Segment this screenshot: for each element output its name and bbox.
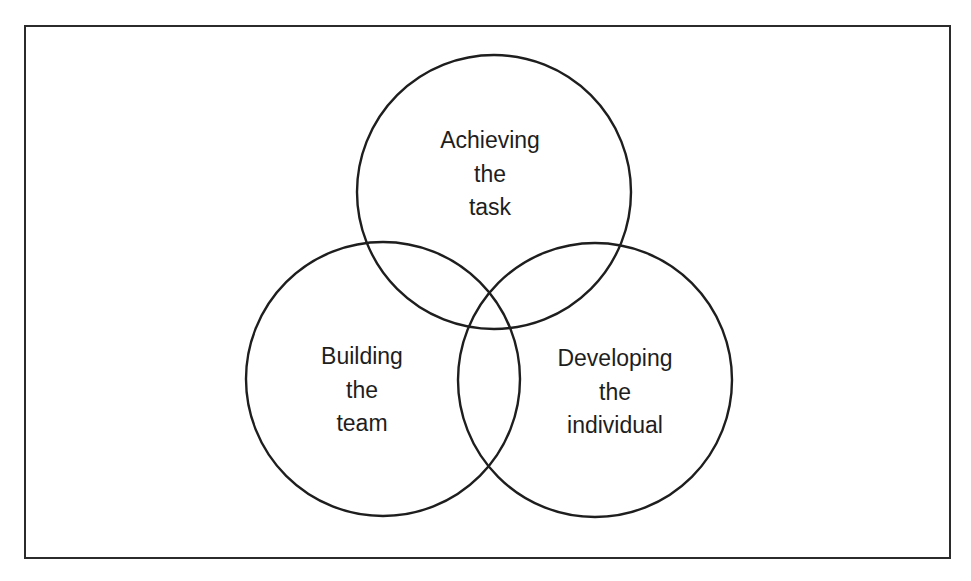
label-line: Achieving bbox=[440, 124, 540, 158]
label-building-team: Building the team bbox=[321, 340, 403, 441]
label-line: Building bbox=[321, 340, 403, 374]
label-line: the bbox=[440, 158, 540, 192]
label-line: team bbox=[321, 407, 403, 441]
label-line: Developing bbox=[557, 342, 672, 376]
label-achieving-task: Achieving the task bbox=[440, 124, 540, 225]
label-developing-individual: Developing the individual bbox=[557, 342, 672, 443]
label-line: task bbox=[440, 191, 540, 225]
venn-diagram bbox=[0, 0, 971, 581]
label-line: individual bbox=[557, 409, 672, 443]
label-line: the bbox=[321, 374, 403, 408]
label-line: the bbox=[557, 376, 672, 410]
